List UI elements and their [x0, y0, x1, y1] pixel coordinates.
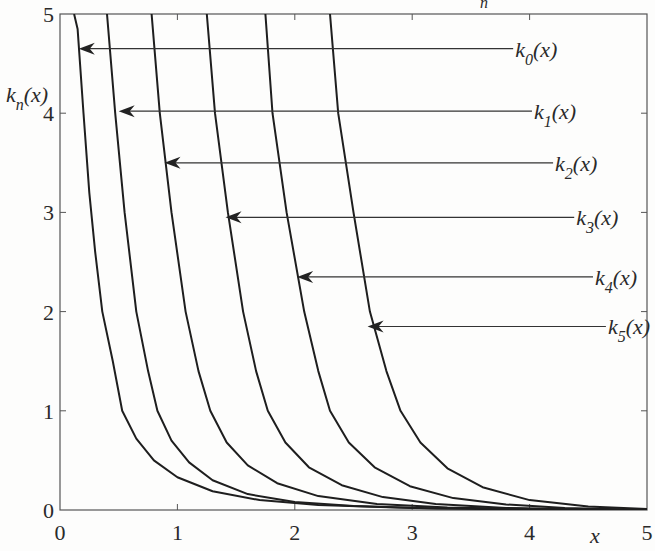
- curve-k4(x): [265, 14, 647, 510]
- series-label: k0(x): [515, 37, 557, 68]
- y-tick-label: 5: [43, 2, 54, 27]
- curve-k3(x): [207, 14, 647, 510]
- y-tick-label: 0: [43, 498, 54, 523]
- curves: [74, 14, 647, 510]
- y-axis-label: kn(x): [6, 82, 48, 113]
- x-tick-label: 3: [407, 520, 418, 545]
- bessel-k-chart: n 012345012345 k0(x)k1(x)k2(x)k3(x)k4(x)…: [0, 0, 655, 551]
- x-tick-label: 1: [172, 520, 183, 545]
- curve-k2(x): [152, 14, 647, 510]
- svg-text:kn(x): kn(x): [6, 82, 48, 113]
- y-tick-label: 2: [43, 300, 54, 325]
- x-tick-label: 5: [642, 520, 653, 545]
- top-fragment-label: n: [480, 0, 488, 11]
- series-label: k3(x): [576, 205, 618, 236]
- x-axis-label: x: [589, 523, 600, 548]
- curve-k5(x): [330, 14, 647, 509]
- x-tick-label: 0: [55, 520, 66, 545]
- x-tick-label: 4: [524, 520, 535, 545]
- y-tick-label: 3: [43, 200, 54, 225]
- series-label: k5(x): [608, 314, 650, 345]
- x-tick-label: 2: [289, 520, 300, 545]
- series-label: k2(x): [555, 151, 597, 182]
- series-label: k4(x): [595, 265, 637, 296]
- y-tick-label: 1: [43, 399, 54, 424]
- axis-ticks: 012345012345: [43, 2, 653, 545]
- curve-k1(x): [107, 14, 647, 510]
- curve-k0(x): [74, 14, 647, 510]
- plot-frame: [60, 14, 647, 510]
- series-label: k1(x): [534, 99, 576, 130]
- curve-annotations: k0(x)k1(x)k2(x)k3(x)k4(x)k5(x): [79, 37, 650, 346]
